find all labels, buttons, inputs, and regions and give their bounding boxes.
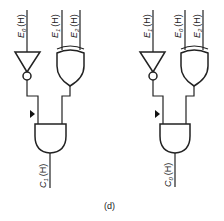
- label-e1-right: E1(H): [142, 14, 153, 38]
- label-e1-left: E1(H): [50, 14, 61, 38]
- not-gate-left: [15, 52, 40, 72]
- wire-xor-to-and-right: [186, 86, 194, 124]
- and-gate-left: [35, 124, 66, 153]
- polarity-indicator-left: [30, 110, 35, 118]
- label-e0-right: E0(H): [173, 14, 184, 38]
- xor-gate-right: [181, 50, 208, 86]
- wire-not-to-and-right: [153, 80, 163, 124]
- logic-diagram: E0(H) E1(H) E2(H) C1(H) E1(H) E0(H) E2(H…: [0, 0, 224, 221]
- and-gate-right: [160, 124, 190, 153]
- xor-gate-left: [57, 50, 84, 86]
- polarity-indicator-right: [155, 110, 160, 118]
- wire-not-to-and-left: [27, 80, 38, 124]
- label-c0: C0(H): [163, 163, 174, 187]
- inversion-bubble-right: [149, 72, 157, 80]
- wire-xor-to-and-left: [62, 86, 70, 124]
- label-e2-right: E2(H): [192, 14, 203, 38]
- label-e2-left: E2(H): [69, 14, 80, 38]
- inversion-bubble-left: [23, 72, 31, 80]
- not-gate-right: [140, 52, 165, 72]
- label-c1: C1(H): [38, 164, 49, 188]
- label-e0-left: E0(H): [16, 14, 27, 38]
- figure-caption: (d): [104, 201, 115, 211]
